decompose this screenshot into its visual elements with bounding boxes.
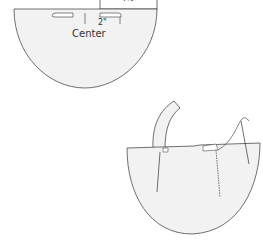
dimension-label: 2" — [98, 18, 107, 27]
bottom-assembled-bag — [127, 101, 260, 234]
half-disk — [14, 9, 157, 88]
left-slot — [52, 13, 73, 17]
rect-label: 4½ — [121, 0, 134, 3]
right-slot — [100, 13, 121, 17]
handle-strap — [153, 101, 180, 149]
center-label: Center — [72, 28, 106, 39]
top-pattern-piece — [14, 0, 157, 88]
pattern-diagram — [0, 0, 263, 240]
bag-body — [127, 143, 260, 234]
left-tab — [163, 148, 168, 152]
